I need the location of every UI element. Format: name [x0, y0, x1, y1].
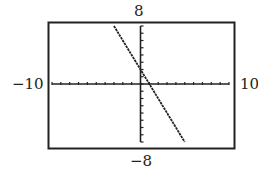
viewing-window-border	[49, 23, 235, 149]
axes	[52, 26, 229, 142]
graph-window	[0, 0, 258, 172]
